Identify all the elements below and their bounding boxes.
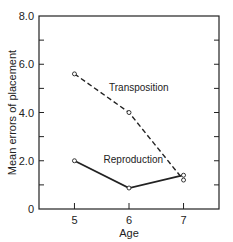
data-point-marker [127, 111, 131, 115]
x-tick-label: 6 [126, 214, 132, 226]
data-point-marker [182, 173, 186, 177]
y-axis-title: Mean errors of placement [6, 50, 18, 175]
y-tick-label: 6.0 [19, 58, 34, 70]
data-point-marker [127, 186, 131, 190]
series-label: Reproduction [104, 154, 163, 165]
x-tick-label: 7 [180, 214, 186, 226]
data-point-marker [182, 178, 186, 182]
plot-labels: 02.04.06.08.0567AgeMean errors of placem… [6, 10, 187, 239]
series-label: Transposition [109, 82, 169, 93]
chart-canvas: 02.04.06.08.0567AgeMean errors of placem… [0, 0, 233, 242]
x-axis-title: Age [119, 227, 139, 239]
y-tick-label: 4.0 [19, 107, 34, 119]
y-tick-label: 0 [28, 203, 34, 215]
data-point-marker [72, 72, 76, 76]
x-tick-label: 5 [71, 214, 77, 226]
y-tick-label: 8.0 [19, 10, 34, 22]
y-tick-label: 2.0 [19, 155, 34, 167]
line-chart: 02.04.06.08.0567AgeMean errors of placem… [0, 0, 233, 242]
data-point-marker [72, 159, 76, 163]
